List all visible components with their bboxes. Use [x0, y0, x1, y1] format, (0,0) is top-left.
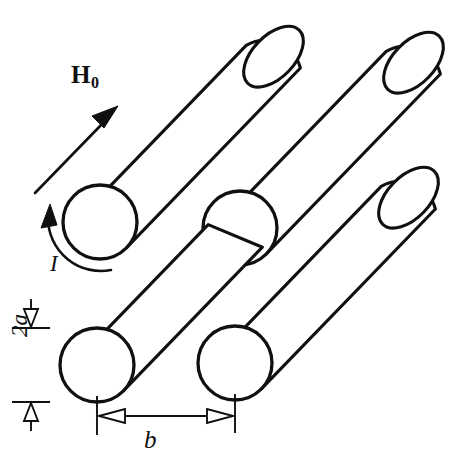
applied-field-label: H0 — [71, 62, 99, 91]
current-label: I — [50, 252, 58, 275]
cylinder-bottom-left-cross-section — [60, 328, 134, 402]
spacing-dim-left-arrowhead — [99, 409, 125, 423]
figure-root: H0 I 2a b — [0, 0, 462, 464]
cylinder-bottom-right-cross-section — [198, 326, 272, 400]
applied-field-arrow-shaft — [35, 123, 103, 193]
applied-field-label-symbol: H — [71, 61, 90, 88]
spacing-dim-right-arrowhead — [207, 409, 233, 423]
applied-field-arrow-head — [92, 106, 118, 128]
applied-field-label-subscript: 0 — [91, 74, 99, 91]
applied-field-arrow — [35, 106, 118, 193]
center-spacing-dimension — [97, 394, 235, 435]
cylinder-top-left-cross-section — [63, 185, 137, 259]
cylinder-array-diagram — [0, 0, 462, 464]
diameter-label: 2a — [8, 314, 31, 337]
spacing-label: b — [144, 427, 157, 452]
diameter-dim-lower-arrowhead — [24, 403, 38, 421]
current-arc-head — [41, 204, 57, 228]
